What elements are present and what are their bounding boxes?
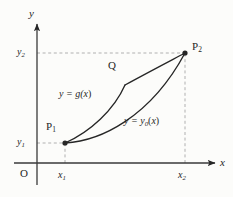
origin-label: O <box>20 168 28 179</box>
x2-tick-label: x2 <box>178 170 186 180</box>
y1-tick-label: y1 <box>17 137 25 147</box>
point-p1-marker <box>62 140 67 145</box>
y2-tick-sub: 2 <box>21 51 24 58</box>
point-p2-sub: 2 <box>198 45 202 54</box>
y-axis-label: y <box>29 8 34 19</box>
curve-y0-label-base: y = y <box>124 115 145 126</box>
point-p2-label: P2 <box>192 41 202 52</box>
point-p1-sub: 1 <box>52 125 56 134</box>
x-axis-label: x <box>220 157 225 168</box>
y2-tick-label: y2 <box>17 47 25 57</box>
curve-g-label-tail: ) <box>88 88 91 99</box>
curve-g-label-base: y = g( <box>59 88 84 99</box>
y1-tick-sub: 1 <box>21 141 24 148</box>
curve-y0-label: y = y0(x) <box>124 116 159 126</box>
curve-g-label: y = g(x) <box>59 89 91 99</box>
x1-tick-sub: 1 <box>62 174 65 181</box>
x1-tick-label: x1 <box>58 170 66 180</box>
curve-y0-label-tail: ) <box>156 115 159 126</box>
point-q-base: Q <box>108 59 116 71</box>
diagram-svg <box>0 0 233 197</box>
point-p2-marker <box>182 50 187 55</box>
x2-tick-sub: 2 <box>182 174 185 181</box>
figure-canvas: y x O y2 y1 x1 x2 P1 P2 Q y = g(x) y = y… <box>0 0 233 197</box>
point-q-label: Q <box>108 60 116 71</box>
curve-y0-label-sub: 0 <box>145 120 148 127</box>
point-p1-label: P1 <box>46 121 56 132</box>
